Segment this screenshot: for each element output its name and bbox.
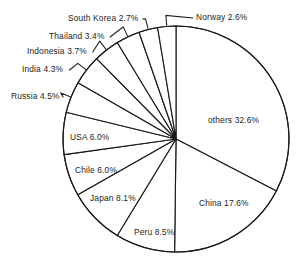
- pie-label-others: others 32.6%: [208, 116, 259, 124]
- pie-label-south-korea: South Korea 2.7%: [68, 14, 138, 22]
- pie-chart-canvas: [0, 0, 306, 262]
- pie-label-usa: USA 6.0%: [70, 133, 109, 141]
- pie-label-japan: Japan 8.1%: [90, 194, 136, 202]
- pie-chart-figure: others 32.6%China 17.6%Peru 8.5%Japan 8.…: [0, 0, 306, 262]
- leader-line-russia: [61, 93, 70, 97]
- leader-line-thailand: [110, 27, 127, 37]
- pie-label-indonesia: Indonesia 3.7%: [27, 47, 87, 55]
- pie-label-india: India 4.3%: [22, 65, 63, 73]
- leader-line-south-korea: [143, 19, 148, 29]
- leader-line-norway: [166, 15, 193, 25]
- pie-label-russia: Russia 4.5%: [11, 92, 60, 100]
- leader-line-india: [70, 63, 86, 70]
- leader-line-indonesia: [93, 41, 106, 52]
- pie-label-thailand: Thailand 3.4%: [49, 32, 105, 40]
- pie-label-china: China 17.6%: [199, 199, 249, 207]
- pie-label-chile: Chile 6.0%: [75, 166, 117, 174]
- pie-label-peru: Peru 8.5%: [134, 228, 174, 236]
- pie-label-norway: Norway 2.6%: [196, 13, 247, 21]
